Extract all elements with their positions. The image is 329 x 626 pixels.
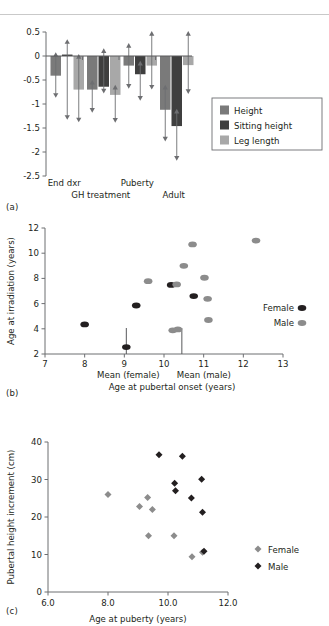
panel-c-svg: 0102030406.08.010.012.0Age at puberty (y… [0, 406, 329, 626]
panel-b-data-point [174, 327, 183, 333]
panel-c-data-point [188, 494, 195, 501]
panel-a-y-tick-label: -1.5 [23, 123, 40, 133]
panel-a-error-arrow-down [126, 84, 131, 89]
panel-c-data-point [149, 506, 156, 513]
panel-a-legend-swatch [220, 121, 229, 130]
panel-a-error-arrow-down [113, 118, 118, 123]
panel-b-x-tick-label: 9 [122, 359, 127, 369]
panel-c-x-tick-label: 10.0 [158, 598, 177, 608]
panel-a-group-label: Adult [163, 190, 186, 200]
panel-b-y-axis-title: Age at irradiation (years) [6, 237, 16, 345]
panel-b-x-tick-label: 7 [42, 359, 47, 369]
panel-a-error-arrow-down [90, 108, 95, 113]
panel-c-x-tick-label: 6.0 [41, 598, 55, 608]
panel-a-error-arrow-down [76, 118, 81, 123]
panel-c-y-tick-label: 0 [37, 587, 42, 597]
panel-c-data-point [156, 451, 163, 458]
panel-b-y-tick-label: 2 [34, 349, 39, 359]
panel-a-svg: 0.50-0.5-1-1.5-2-2.5End dxrGH treatmentP… [0, 18, 329, 218]
panel-b-mean-female-label: Mean (female) [97, 370, 159, 380]
panel-b-data-point [172, 282, 181, 288]
panel-c-legend-marker [255, 563, 262, 570]
panel-a-group-label: Puberty [121, 178, 154, 188]
panel-c-x-tick-label: 8.0 [101, 598, 115, 608]
panel-a-legend-swatch [220, 136, 229, 145]
panel-b-legend-marker [298, 320, 307, 326]
panel-c-data-point [198, 476, 205, 483]
panel-a-error-arrow-down [174, 156, 179, 161]
panel-a-error-arrow-down [101, 89, 106, 94]
panel-a-bar-chart: 0.50-0.5-1-1.5-2-2.5End dxrGH treatmentP… [0, 18, 329, 218]
panel-c-x-tick-label: 12.0 [218, 598, 237, 608]
panel-b-data-point [203, 296, 212, 302]
panel-b-data-point [122, 344, 131, 350]
panel-b-data-point [204, 317, 213, 323]
panel-b-scatter-chart: 2468101278910111213Mean (female)Mean (ma… [0, 212, 329, 404]
panel-c-y-tick-label: 10 [31, 550, 42, 560]
panel-c-data-point [179, 453, 186, 460]
panel-c-legend-marker [255, 546, 262, 553]
panel-b-legend-label: Female [263, 303, 294, 313]
panel-a-group-label: GH treatment [71, 190, 131, 200]
panel-c-y-tick-label: 30 [31, 475, 42, 485]
panel-c-x-axis-title: Age at puberty (years) [89, 614, 186, 624]
panel-b-data-point [189, 293, 198, 299]
panel-c-y-tick-label: 20 [31, 512, 42, 522]
panel-a-error-arrow-down [138, 96, 143, 101]
panel-c-data-point [136, 503, 143, 510]
panel-a-group-label: End dxr [48, 178, 82, 188]
panel-b-x-axis-title: Age at pubertal onset (years) [109, 382, 236, 392]
panel-a-y-tick-label: 0.5 [26, 27, 40, 37]
panel-a-error-arrow-down [163, 137, 168, 142]
panel-c-data-point [144, 494, 151, 501]
panel-b-data-point [144, 278, 153, 284]
panel-a-error-arrow-down [53, 93, 58, 98]
panel-a-y-tick-label: -1 [31, 99, 40, 109]
panel-a-error-arrow-up [186, 31, 191, 36]
panel-b-y-tick-label: 4 [34, 324, 39, 334]
panel-c-y-tick-label: 40 [31, 437, 42, 447]
panel-b-x-tick-label: 10 [159, 359, 170, 369]
panel-c-legend-label: Female [268, 545, 299, 555]
panel-b-y-tick-label: 6 [34, 299, 39, 309]
panel-a-legend-swatch [220, 106, 229, 115]
panel-b-y-tick-label: 12 [28, 223, 39, 233]
panel-b-data-point [80, 321, 89, 327]
panel-b-data-point [252, 238, 261, 244]
panel-b-svg: 2468101278910111213Mean (female)Mean (ma… [0, 212, 329, 404]
panel-a-error-arrow-down [65, 115, 70, 120]
panel-c-data-point [189, 553, 196, 560]
panel-a-y-tick-label: -2.5 [23, 171, 40, 181]
panel-a-y-tick-label: -0.5 [23, 75, 40, 85]
panel-b-x-tick-label: 13 [278, 359, 289, 369]
panel-a-y-tick-label: -2 [31, 147, 40, 157]
panel-a-error-arrow-down [186, 89, 191, 94]
panel-c-data-point [145, 532, 152, 539]
panel-b-x-tick-label: 8 [82, 359, 87, 369]
panel-a-error-arrow-up [149, 31, 154, 36]
panel-a-tag: (a) [6, 202, 18, 212]
panel-a-error-arrow-down [149, 85, 154, 90]
panel-c-data-point [171, 480, 178, 487]
panel-c-y-axis-title: Pubertal height increment (cm) [6, 450, 16, 585]
panel-b-mean-male-label: Mean (male) [177, 370, 231, 380]
panel-b-data-point [180, 263, 189, 269]
panel-c-data-point [105, 491, 112, 498]
panel-c-scatter-chart: 0102030406.08.010.012.0Age at puberty (y… [0, 406, 329, 626]
panel-a-legend-label: Sitting height [234, 121, 293, 131]
top-divider-rule [0, 14, 329, 15]
panel-b-x-tick-label: 11 [198, 359, 209, 369]
panel-b-y-tick-label: 8 [34, 273, 39, 283]
panel-c-data-point [171, 532, 178, 539]
panel-b-y-tick-label: 10 [28, 248, 39, 258]
panel-a-y-tick-label: 0 [35, 51, 40, 61]
panel-b-tag: (b) [6, 388, 19, 398]
panel-a-legend-label: Leg length [234, 136, 280, 146]
panel-a-error-arrow-up [65, 39, 70, 44]
figure-container: 0.50-0.5-1-1.5-2-2.5End dxrGH treatmentP… [0, 0, 329, 626]
panel-c-data-point [172, 487, 179, 494]
panel-b-x-tick-label: 12 [238, 359, 249, 369]
panel-b-data-point [200, 275, 209, 281]
panel-b-data-point [132, 303, 141, 309]
panel-a-error-arrow-up [126, 43, 131, 48]
